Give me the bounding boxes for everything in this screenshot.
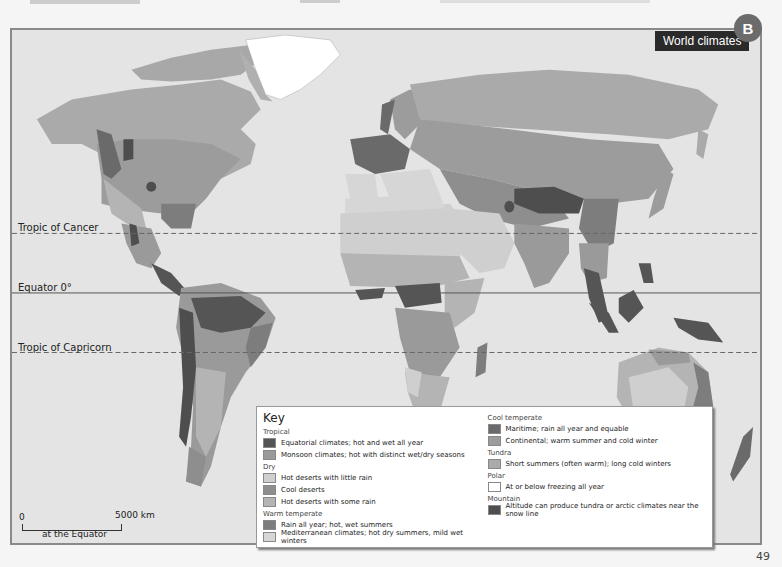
color-swatch [488, 482, 501, 492]
textbook-page: Tropic of Cancer Equator 0° Tropic of Ca… [0, 0, 782, 567]
key-item: At or below freezing all year [488, 481, 707, 492]
tropic-of-cancer-label: Tropic of Cancer [18, 222, 98, 233]
key-group-cool-temperate: Cool temperate [488, 414, 707, 422]
section-badge: B [734, 14, 762, 42]
scale-bar: 0 5000 km at the Equator [17, 512, 132, 542]
key-group-dry: Dry [263, 463, 482, 471]
color-swatch [488, 424, 501, 434]
key-group-tundra: Tundra [488, 449, 707, 457]
mexico [121, 223, 161, 268]
page-number: 49 [756, 550, 770, 563]
key-item: Continental; warm summer and cold winter [488, 435, 707, 446]
key-item-label: Rain all year; hot, wet summers [281, 521, 393, 529]
key-item-label: Continental; warm summer and cold winter [506, 437, 658, 445]
color-swatch [488, 459, 501, 469]
scale-start: 0 [19, 512, 25, 522]
key-item: Monsoon climates; hot with distinct wet/… [263, 449, 482, 460]
key-item-label: Monsoon climates; hot with distinct wet/… [281, 451, 465, 459]
map-key: Key Tropical Equatorial climates; hot an… [256, 406, 713, 548]
us-southeast-warm [161, 204, 196, 229]
key-item-label: Short summers (often warm); long cold wi… [506, 460, 672, 468]
color-swatch [263, 532, 276, 542]
borneo [619, 290, 644, 323]
color-swatch [263, 450, 276, 460]
key-item-label: Equatorial climates; hot and wet all yea… [281, 439, 423, 447]
color-swatch [263, 473, 276, 483]
key-item: Cool deserts [263, 484, 482, 495]
color-swatch [263, 497, 276, 507]
arctic-islands [131, 45, 260, 82]
kamchatka [696, 129, 708, 159]
norway-maritime [380, 99, 395, 134]
key-column-right: Cool temperate Maritime; rain all year a… [488, 411, 707, 542]
key-item: Equatorial climates; hot and wet all yea… [263, 437, 482, 448]
key-group-warm-temperate: Warm temperate [263, 510, 482, 518]
key-item: Mediterranean climates; hot dry summers,… [263, 531, 482, 542]
key-group-tropical: Tropical [263, 428, 482, 436]
key-item-label: Altitude can produce tundra or arctic cl… [506, 502, 707, 518]
iberia-med [345, 174, 378, 199]
key-item: Hot deserts with some rain [263, 496, 482, 507]
west-africa-coast [355, 288, 385, 300]
key-item: Maritime; rain all year and equable [488, 423, 707, 434]
key-column-left: Tropical Equatorial climates; hot and we… [263, 425, 482, 542]
color-swatch [263, 438, 276, 448]
color-swatch [263, 485, 276, 495]
faint-header-text [300, 0, 340, 3]
color-swatch [263, 520, 276, 530]
key-item-label: Cool deserts [281, 486, 325, 494]
key-item-label: Mediterranean climates; hot dry summers,… [281, 529, 482, 545]
equator-label: Equator 0° [18, 282, 72, 293]
key-item-label: Hot deserts with some rain [281, 498, 376, 506]
key-item: Altitude can produce tundra or arctic cl… [488, 504, 707, 515]
color-swatch [488, 505, 501, 515]
key-item-label: Hot deserts with little rain [281, 474, 372, 482]
pamir-mountain [504, 201, 514, 213]
central-africa-monsoon [395, 308, 460, 377]
philippines [639, 263, 654, 283]
faint-header-text [30, 0, 140, 4]
faint-header-text [440, 0, 650, 3]
scale-end: 5000 km [115, 510, 155, 520]
color-swatch [488, 436, 501, 446]
new-zealand [730, 427, 753, 482]
tropic-of-capricorn-label: Tropic of Capricorn [18, 342, 112, 353]
madagascar [476, 343, 488, 378]
key-group-polar: Polar [488, 472, 707, 480]
key-item-label: At or below freezing all year [506, 483, 605, 491]
key-item: Hot deserts with little rain [263, 472, 482, 483]
argentina [196, 367, 226, 456]
new-guinea [673, 318, 723, 343]
congo-equatorial [395, 283, 442, 308]
rocky-mountains [123, 139, 133, 161]
scale-note: at the Equator [42, 529, 107, 539]
mountain-spot [146, 182, 156, 192]
western-europe-maritime [350, 134, 410, 174]
key-item: Short summers (often warm); long cold wi… [488, 458, 707, 469]
key-item-label: Maritime; rain all year and equable [506, 425, 629, 433]
